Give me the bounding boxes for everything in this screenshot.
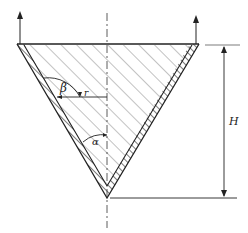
label-H: H	[228, 115, 239, 128]
label-r: r	[84, 88, 89, 98]
lift-arrow-right-icon	[193, 15, 199, 44]
lift-arrow-left-icon	[17, 11, 23, 44]
cone-diagram: β r α H	[0, 0, 248, 233]
fluid-fill	[24, 45, 192, 186]
label-beta: β	[59, 81, 67, 95]
label-alpha: α	[92, 136, 99, 147]
